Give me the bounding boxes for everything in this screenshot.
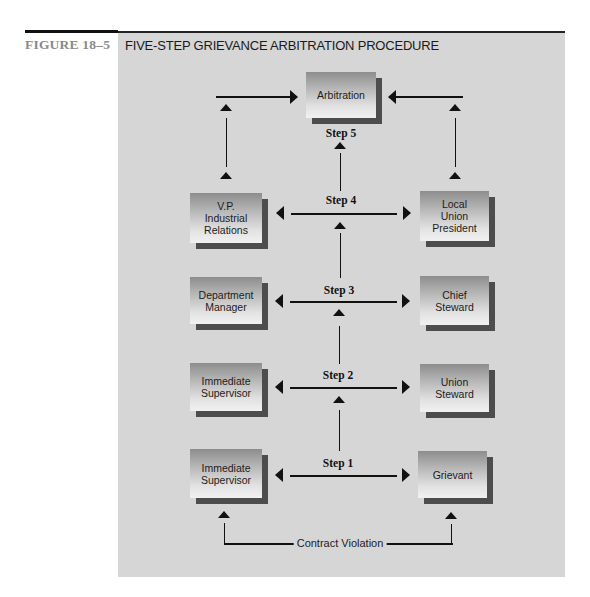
arrow-up-icon: [449, 172, 461, 179]
node-union-steward: Union Steward: [420, 364, 489, 412]
connector-step3: [290, 301, 397, 303]
connector-vp-to-arbitration: [216, 96, 290, 98]
arrow-right-icon: [402, 294, 410, 308]
arrow-up-icon: [334, 222, 346, 229]
figure-rule-thick: [25, 30, 118, 33]
node-immediate-supervisor-step2: Immediate Supervisor: [190, 363, 262, 411]
figure-number: FIGURE 18–5: [25, 37, 110, 53]
connector-union-vertical: [455, 118, 457, 167]
arrow-up-icon: [445, 512, 457, 519]
arrow-left-icon: [275, 380, 283, 394]
connector-step2: [290, 387, 397, 389]
arrow-right-icon: [402, 380, 410, 394]
arrow-left-icon: [275, 468, 283, 482]
node-vp-industrial-relations: V.P. Industrial Relations: [190, 193, 262, 243]
arrow-up-icon: [449, 104, 461, 111]
step-4-label: Step 4: [326, 194, 356, 206]
connector-step1: [290, 475, 397, 477]
arrow-up-icon: [334, 142, 346, 149]
connector-step4: [291, 213, 397, 215]
connector-vp-vertical: [226, 118, 228, 167]
step-2-label: Step 2: [323, 369, 353, 381]
figure-rule-thin: [118, 31, 565, 33]
node-grievant: Grievant: [418, 451, 487, 498]
arrow-right-icon: [403, 206, 411, 220]
connector-step4-to-step5: [340, 153, 342, 191]
connector-step2-to-step3: [339, 326, 341, 364]
step-1-label: Step 1: [323, 457, 353, 469]
arrow-up-icon: [333, 309, 345, 316]
node-arbitration: Arbitration: [306, 72, 376, 118]
arrow-up-icon: [220, 172, 232, 179]
arrow-left-icon: [275, 294, 283, 308]
arrow-up-icon: [220, 104, 232, 111]
node-immediate-supervisor-step1: Immediate Supervisor: [190, 449, 262, 498]
arrow-left-icon: [388, 90, 396, 104]
step-3-label: Step 3: [324, 284, 354, 296]
connector-union-to-arbitration: [396, 96, 463, 98]
arrow-right-icon: [402, 468, 410, 482]
contract-violation-label: Contract Violation: [294, 537, 387, 549]
step-5-label: Step 5: [326, 127, 356, 139]
connector-violation-left: [224, 523, 226, 544]
connector-violation-right: [451, 524, 453, 544]
node-chief-steward: Chief Steward: [420, 276, 489, 325]
node-local-union-president: Local Union President: [420, 191, 489, 241]
connector-step1-to-step2: [339, 410, 341, 451]
arrow-up-icon: [218, 511, 230, 518]
connector-step3-to-step4: [340, 233, 342, 278]
figure-title: FIVE-STEP GRIEVANCE ARBITRATION PROCEDUR…: [125, 38, 439, 53]
arrow-up-icon: [333, 396, 345, 403]
arrow-right-icon: [290, 90, 298, 104]
node-department-manager: Department Manager: [190, 277, 262, 324]
arrow-left-icon: [276, 206, 284, 220]
